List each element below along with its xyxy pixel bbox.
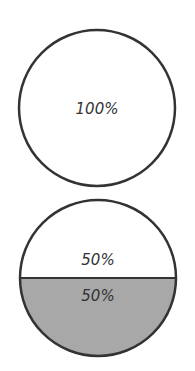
- full-circle: 100%: [19, 30, 175, 186]
- top-half-label: 50%: [81, 251, 114, 269]
- percentage-circles-diagram: 100% 50% 50%: [0, 0, 195, 371]
- half-circle: 50% 50%: [18, 200, 178, 358]
- full-circle-label: 100%: [76, 100, 119, 118]
- bottom-half-label: 50%: [81, 287, 114, 305]
